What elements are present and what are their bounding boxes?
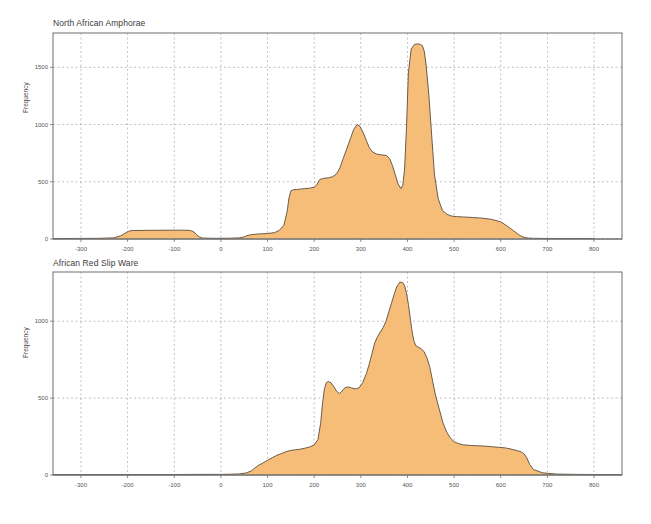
x-tick-label: -100 bbox=[168, 246, 181, 252]
x-tick-label: 300 bbox=[356, 482, 367, 488]
x-tick-label: 700 bbox=[542, 246, 553, 252]
x-tick-label: 200 bbox=[309, 246, 320, 252]
y-tick-label: 0 bbox=[45, 236, 49, 242]
x-tick-label: 500 bbox=[449, 246, 460, 252]
x-tick-label: 300 bbox=[356, 246, 367, 252]
y-tick-label: 1000 bbox=[35, 318, 49, 324]
y-tick-label: 1000 bbox=[35, 122, 49, 128]
y-tick-label: 1500 bbox=[35, 64, 49, 70]
x-tick-label: 600 bbox=[496, 482, 507, 488]
x-tick-label: 100 bbox=[263, 246, 274, 252]
x-tick-label: -200 bbox=[122, 482, 135, 488]
x-tick-label: 800 bbox=[589, 482, 600, 488]
y-tick-label: 0 bbox=[45, 472, 49, 478]
chart-svg-0: -300-200-1000100200300400500600700800050… bbox=[0, 18, 651, 256]
x-tick-label: 600 bbox=[496, 246, 507, 252]
chart-panel-african-red-slip-ware: African Red Slip Ware Frequency -300-200… bbox=[0, 258, 651, 506]
x-tick-label: 0 bbox=[219, 482, 223, 488]
figure-root: North African Amphorae Frequency -300-20… bbox=[0, 0, 651, 524]
x-tick-label: 100 bbox=[263, 482, 274, 488]
x-tick-label: 800 bbox=[589, 246, 600, 252]
x-tick-label: 200 bbox=[309, 482, 320, 488]
y-tick-label: 500 bbox=[38, 395, 49, 401]
x-tick-label: 400 bbox=[402, 246, 413, 252]
chart-panel-north-african-amphorae: North African Amphorae Frequency -300-20… bbox=[0, 18, 651, 256]
area-fill bbox=[53, 44, 594, 239]
x-tick-label: 500 bbox=[449, 482, 460, 488]
x-tick-label: -300 bbox=[75, 246, 88, 252]
area-fill bbox=[53, 282, 622, 475]
x-tick-label: 0 bbox=[219, 246, 223, 252]
y-tick-label: 500 bbox=[38, 179, 49, 185]
x-tick-label: -100 bbox=[168, 482, 181, 488]
x-tick-label: -300 bbox=[75, 482, 88, 488]
chart-svg-1: -300-200-1000100200300400500600700800050… bbox=[0, 258, 651, 506]
x-tick-label: -200 bbox=[122, 246, 135, 252]
x-tick-label: 700 bbox=[542, 482, 553, 488]
x-tick-label: 400 bbox=[402, 482, 413, 488]
